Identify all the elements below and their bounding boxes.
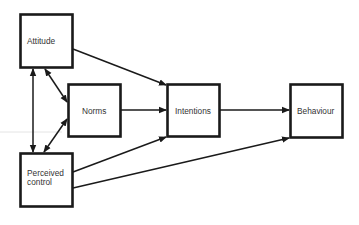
edge-attitude-to-intentions (73, 49, 166, 85)
node-norms-label: Norms (82, 106, 106, 116)
node-norms: Norms (69, 85, 121, 137)
node-behaviour-label: Behaviour (297, 106, 335, 116)
node-intentions-label: Intentions (175, 106, 211, 116)
node-behaviour: Behaviour (291, 85, 343, 138)
node-perceived-control-label-line2: control (27, 177, 52, 187)
diagram-canvas: Attitude Norms Perceived control Intenti… (0, 0, 359, 225)
node-intentions: Intentions (168, 85, 220, 137)
edge-norms-to-perceived-control (44, 119, 67, 152)
node-attitude: Attitude (21, 15, 73, 68)
node-attitude-label: Attitude (27, 36, 56, 46)
edge-attitude-to-norms (45, 69, 67, 102)
edge-perceived-control-to-behaviour (73, 138, 289, 188)
node-perceived-control: Perceived control (21, 154, 73, 207)
edge-perceived-control-to-intentions (73, 137, 166, 172)
